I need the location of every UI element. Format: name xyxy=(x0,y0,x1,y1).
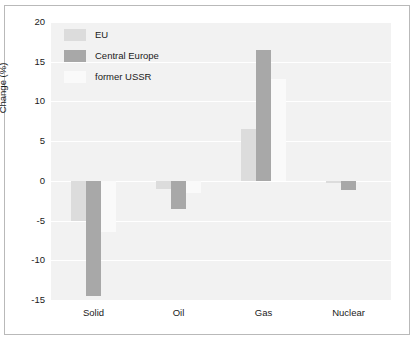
gridline xyxy=(51,300,391,301)
x-axis-tick-label: Oil xyxy=(136,307,221,318)
y-axis-tick-label: -10 xyxy=(0,254,45,265)
gridline xyxy=(51,260,391,261)
y-axis-tick-label: 10 xyxy=(0,95,45,106)
legend-item: Central Europe xyxy=(64,47,224,64)
bar xyxy=(86,181,101,296)
gridline xyxy=(51,22,391,23)
bar xyxy=(101,181,116,233)
legend-label: Central Europe xyxy=(95,50,159,61)
legend-item: former USSR xyxy=(64,68,224,85)
gridline xyxy=(51,141,391,142)
y-axis-tick-label: -15 xyxy=(0,294,45,305)
y-axis-label: Change (%) xyxy=(0,28,8,148)
legend-swatch xyxy=(64,71,86,83)
bar xyxy=(71,181,86,221)
bar xyxy=(326,181,341,183)
bar xyxy=(341,181,356,191)
legend: EUCentral Europeformer USSR xyxy=(64,26,224,89)
y-axis-tick-label: 0 xyxy=(0,175,45,186)
legend-swatch xyxy=(64,29,86,41)
gridline xyxy=(51,101,391,102)
bar xyxy=(256,50,271,181)
legend-item: EU xyxy=(64,26,224,43)
x-axis-tick-label: Gas xyxy=(221,307,306,318)
legend-label: EU xyxy=(95,29,108,40)
x-axis-tick-label: Solid xyxy=(51,307,136,318)
y-axis-tick-label: 5 xyxy=(0,135,45,146)
legend-label: former USSR xyxy=(95,71,151,82)
x-axis-tick-label: Nuclear xyxy=(306,307,391,318)
bar xyxy=(186,181,201,193)
figure: Change (%) 20151050-5-10-15 SolidOilGasN… xyxy=(0,0,416,341)
y-axis-tick-label: 20 xyxy=(0,16,45,27)
bar xyxy=(271,79,286,181)
bar xyxy=(156,181,171,189)
y-axis-tick-label: 15 xyxy=(0,56,45,67)
bar xyxy=(241,129,256,181)
legend-swatch xyxy=(64,50,86,62)
y-axis-tick-label: -5 xyxy=(0,215,45,226)
bar xyxy=(171,181,186,209)
